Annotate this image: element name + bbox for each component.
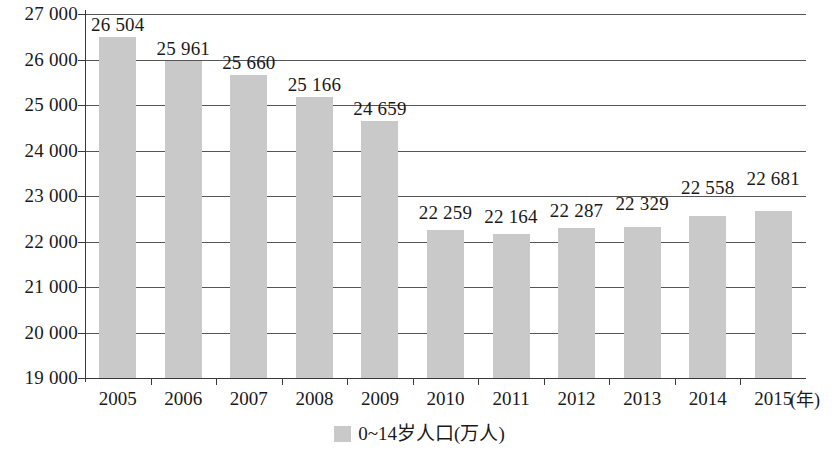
x-axis-tick-label: 2007 [216, 388, 282, 410]
x-axis-tick-label: 2012 [544, 388, 610, 410]
bar-value-label: 24 659 [325, 99, 435, 118]
bar [99, 37, 136, 378]
x-axis-tick-label: 2014 [675, 388, 741, 410]
x-axis-tick [675, 378, 676, 385]
bar-value-label: 22 681 [718, 169, 828, 188]
x-axis-tick-label: 2011 [478, 388, 544, 410]
legend-label: 0~14岁人口(万人) [358, 424, 504, 444]
bar [755, 211, 792, 378]
y-axis-tick-label: 19 000 [25, 368, 78, 387]
x-axis-tick [544, 378, 545, 385]
chart-legend: 0~14岁人口(万人) [0, 424, 839, 444]
x-axis-tick [347, 378, 348, 385]
legend-swatch [334, 426, 351, 442]
x-axis-tick [478, 378, 479, 385]
y-axis-line [85, 10, 86, 382]
y-axis-tick-label: 24 000 [25, 141, 78, 160]
x-axis-tick [413, 378, 414, 385]
gridline [85, 14, 806, 15]
y-axis-tick-label: 22 000 [25, 232, 78, 251]
bar [361, 121, 398, 378]
bar-value-label: 25 166 [259, 75, 369, 94]
bar [689, 216, 726, 378]
bar [165, 61, 202, 378]
x-axis-tick-label: 2013 [609, 388, 675, 410]
x-axis-tick [740, 378, 741, 385]
x-axis-tick-label: 2010 [413, 388, 479, 410]
bar [296, 97, 333, 378]
y-axis-tick-label: 26 000 [25, 50, 78, 69]
bar [230, 75, 267, 378]
bar [493, 234, 530, 378]
x-axis-tick-label: 2009 [347, 388, 413, 410]
y-axis-tick-label: 23 000 [25, 186, 78, 205]
x-axis-line [85, 378, 806, 379]
x-axis-tick [216, 378, 217, 385]
x-axis-tick [151, 378, 152, 385]
bar [624, 227, 661, 378]
y-axis-tick-label: 21 000 [25, 277, 78, 296]
x-axis-unit-label: (年) [790, 389, 820, 411]
x-axis-tick-label: 2005 [85, 388, 151, 410]
bar-value-label: 25 660 [194, 53, 304, 72]
x-axis-tick [282, 378, 283, 385]
x-axis-tick-label: 2008 [282, 388, 348, 410]
x-axis-tick [609, 378, 610, 385]
y-axis-tick-label: 20 000 [25, 323, 78, 342]
y-axis-tick-label: 25 000 [25, 95, 78, 114]
bar [427, 230, 464, 378]
x-axis-tick-label: 2006 [151, 388, 217, 410]
bar-chart: 19 00020 00021 00022 00023 00024 00025 0… [0, 0, 839, 451]
bar-value-label: 26 504 [63, 15, 173, 34]
bar [558, 228, 595, 378]
